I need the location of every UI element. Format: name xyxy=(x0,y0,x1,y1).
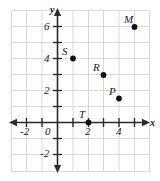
point-label-M: M xyxy=(124,14,133,25)
x-tick-label-2: 2 xyxy=(85,126,91,137)
origin-label: 0 xyxy=(45,126,51,137)
x-tick-label-neg2: -2 xyxy=(20,126,29,137)
coordinate-grid-svg xyxy=(0,0,160,181)
point-label-R: R xyxy=(93,62,100,73)
point-label-T: T xyxy=(79,109,85,120)
point-marker-R xyxy=(101,72,107,78)
grid-lines-horizontal xyxy=(11,11,150,172)
y-tick-label-neg2: -2 xyxy=(40,148,49,159)
point-marker-S xyxy=(70,56,76,62)
x-axis-label: x xyxy=(150,118,155,128)
coordinate-plane-figure: y x 0 -2 2 4 6 4 2 -2 M S R P T xyxy=(0,0,160,181)
y-tick-label-6: 6 xyxy=(44,21,50,32)
y-tick-label-4: 4 xyxy=(44,53,50,64)
point-label-S: S xyxy=(62,46,68,57)
point-marker-P xyxy=(116,96,122,102)
y-tick-label-2: 2 xyxy=(44,85,50,96)
x-tick-label-4: 4 xyxy=(116,126,122,137)
y-axis-label: y xyxy=(50,5,54,15)
point-label-P: P xyxy=(109,86,116,97)
